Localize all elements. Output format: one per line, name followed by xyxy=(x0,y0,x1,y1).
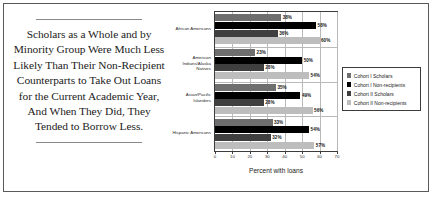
bar-value-label: 38% xyxy=(283,14,292,21)
gridline xyxy=(337,12,338,151)
legend-item[interactable]: Cohort I Non-recipients xyxy=(347,80,417,89)
value-axis: 010203040506070 xyxy=(214,152,338,164)
axis-tick-label: 0 xyxy=(214,154,216,160)
legend-item[interactable]: Cohort II Scholars xyxy=(347,89,417,98)
x-axis-title: Percent with loans xyxy=(214,167,338,174)
category-axis: African AmericansAmerican Indians/Alaska… xyxy=(170,11,213,152)
legend-label: Cohort II Scholars xyxy=(354,91,394,97)
bar-value-label: 56% xyxy=(314,107,323,114)
bar-value-label: 28% xyxy=(265,99,274,106)
bar-value-label: 28% xyxy=(265,64,274,71)
legend-label: Cohort I Scholars xyxy=(354,73,393,79)
callout-panel: Scholars as a Whole and by Minority Grou… xyxy=(3,3,429,192)
legend-item[interactable]: Cohort II Non-recipients xyxy=(347,98,417,107)
bar xyxy=(215,126,309,133)
bar xyxy=(215,92,300,99)
bar xyxy=(215,99,264,106)
legend-label: Cohort I Non-recipients xyxy=(354,82,405,88)
bar xyxy=(215,72,309,79)
bar-value-label: 54% xyxy=(311,72,320,79)
category-label: Asian/Pacific Islanders xyxy=(170,92,211,103)
legend-swatch xyxy=(347,73,351,77)
axis-tick-label: 50 xyxy=(300,154,305,160)
bar-value-label: 23% xyxy=(257,49,266,56)
axis-tick-label: 30 xyxy=(265,154,270,160)
legend-swatch xyxy=(347,100,351,104)
bar-value-label: 58% xyxy=(318,22,327,29)
axis-tick-label: 60 xyxy=(317,154,322,160)
bar-value-label: 33% xyxy=(274,119,283,126)
bar xyxy=(215,64,264,71)
bar xyxy=(215,107,313,114)
category-label: African Americans xyxy=(170,26,211,31)
bar xyxy=(215,134,271,141)
quote-text: Scholars as a Whole and by Minority Grou… xyxy=(11,27,167,135)
bar xyxy=(215,57,302,64)
bar-value-label: 57% xyxy=(316,142,325,149)
bar-value-label: 36% xyxy=(279,30,288,37)
legend-swatch xyxy=(347,82,351,86)
legend-label: Cohort II Non-recipients xyxy=(354,100,407,106)
quote-rule-top xyxy=(36,19,142,20)
bar-chart: African AmericansAmerican Indians/Alaska… xyxy=(170,11,422,185)
bar xyxy=(215,22,316,29)
quote-block: Scholars as a Whole and by Minority Grou… xyxy=(10,10,168,185)
bar xyxy=(215,30,278,37)
bar xyxy=(215,84,276,91)
plot-area: 38%58%36%60%23%50%28%54%35%49%28%56%33%5… xyxy=(214,11,338,152)
axis-tick-label: 10 xyxy=(230,154,235,160)
bar-value-label: 49% xyxy=(302,92,311,99)
quote-rule-bottom xyxy=(36,142,142,143)
legend-swatch xyxy=(347,91,351,95)
bar-value-label: 60% xyxy=(321,37,330,44)
bar-value-label: 54% xyxy=(311,126,320,133)
legend-item[interactable]: Cohort I Scholars xyxy=(347,71,417,80)
bar xyxy=(215,14,281,21)
category-label: American Indians/Alaska Natives xyxy=(170,55,211,71)
category-label: Hispanic Americans xyxy=(170,130,211,135)
group-separator xyxy=(215,82,337,83)
group-separator xyxy=(215,47,337,48)
bar xyxy=(215,119,273,126)
bar xyxy=(215,142,314,149)
chart-legend: Cohort I ScholarsCohort I Non-recipients… xyxy=(342,67,421,111)
bar-value-label: 50% xyxy=(304,57,313,64)
axis-tick-label: 20 xyxy=(247,154,252,160)
bar-value-label: 35% xyxy=(278,84,287,91)
axis-tick-label: 40 xyxy=(282,154,287,160)
axis-tick-label: 70 xyxy=(335,154,340,160)
bar xyxy=(215,37,320,44)
group-separator xyxy=(215,116,337,117)
bar xyxy=(215,49,255,56)
bar-value-label: 32% xyxy=(272,134,281,141)
